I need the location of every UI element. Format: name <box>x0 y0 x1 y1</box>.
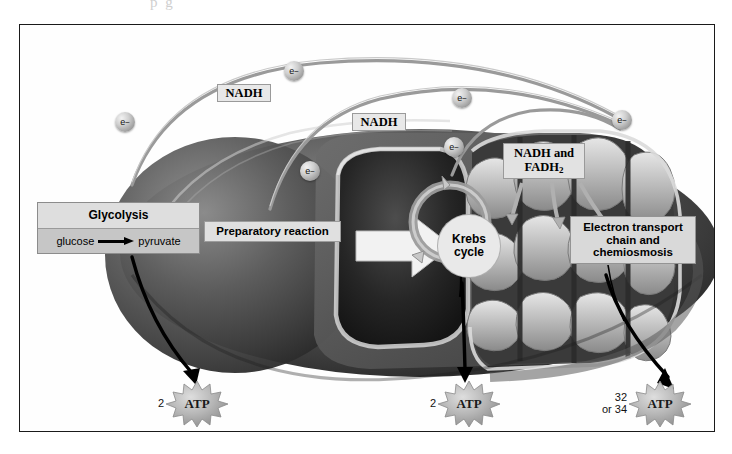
glycolysis-title: Glycolysis <box>38 203 199 229</box>
nadh-fadh2-line-2: FADH2 <box>514 160 574 175</box>
atp-burst-etc: ATP <box>629 380 691 428</box>
nadh-and-fadh2-label: NADH and FADH2 <box>503 143 585 179</box>
atp-text-krebs: ATP <box>457 396 482 412</box>
glycolysis-equation: glucose pyruvate <box>38 229 199 253</box>
krebs-cycle-label: Krebs cycle <box>438 215 500 277</box>
page-scan-artifact: p g <box>150 0 580 10</box>
krebs-line-2: cycle <box>452 246 486 259</box>
cellular-respiration-figure: p g <box>0 0 732 454</box>
atp-text-etc: ATP <box>648 396 673 412</box>
atp-output-etc: 32 or 34 ATP <box>602 380 691 428</box>
etc-line-1: Electron transport <box>583 221 683 234</box>
atp-burst-glycolysis: ATP <box>166 380 228 428</box>
electron-sphere-2: e− <box>284 61 304 81</box>
atp-burst-krebs: ATP <box>438 380 500 428</box>
etc-line-3: chemiosmosis <box>583 246 683 259</box>
preparatory-reaction-label: Preparatory reaction <box>204 221 341 242</box>
electron-transport-chain-label: Electron transport chain and chemiosmosi… <box>570 216 696 264</box>
electron-sphere-4: e− <box>612 110 632 130</box>
figure-frame: Glycolysis glucose pyruvate Preparatory … <box>19 24 715 432</box>
atp-text-glycolysis: ATP <box>185 396 210 412</box>
electron-sphere-3: e− <box>452 88 472 108</box>
electron-sphere-5: e− <box>300 161 320 181</box>
glycolysis-label-box: Glycolysis glucose pyruvate <box>37 202 200 254</box>
atp-output-glycolysis: 2 ATP <box>158 380 228 428</box>
atp-output-krebs: 2 ATP <box>430 380 500 428</box>
etc-line-2: chain and <box>583 234 683 247</box>
electron-sphere-6: e− <box>444 137 464 157</box>
nadh-label-1: NADH <box>217 84 271 102</box>
electron-sphere-1: e− <box>115 112 135 132</box>
atp-count-glycolysis: 2 <box>158 398 164 410</box>
glycolysis-reactant: glucose <box>56 235 94 247</box>
nadh-fadh2-line-1: NADH and <box>514 146 574 160</box>
atp-count-krebs: 2 <box>430 398 436 410</box>
atp-count-etc: 32 or 34 <box>602 392 627 415</box>
right-arrow-icon <box>98 237 134 246</box>
glycolysis-product: pyruvate <box>138 235 180 247</box>
fadh2-subscript: 2 <box>559 165 564 175</box>
nadh-label-2: NADH <box>352 113 406 131</box>
